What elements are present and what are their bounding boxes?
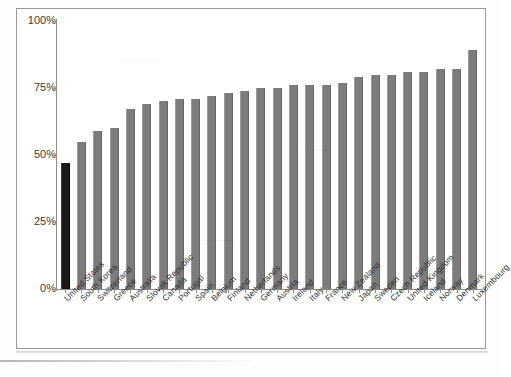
bar	[403, 72, 412, 289]
y-axis-tick-label: 0%	[18, 282, 56, 294]
bar	[240, 91, 249, 289]
bar	[289, 85, 298, 289]
bar	[305, 85, 314, 289]
bar	[322, 85, 331, 289]
bar	[61, 163, 70, 289]
bar	[338, 83, 347, 289]
bar	[77, 142, 86, 289]
bar	[468, 50, 477, 289]
bar	[256, 88, 265, 289]
bar	[387, 75, 396, 289]
y-axis-tick-label: 100%	[18, 14, 56, 26]
bar-series	[57, 21, 481, 289]
bar	[159, 101, 168, 289]
bar	[371, 75, 380, 289]
bar	[224, 93, 233, 289]
scan-shadow	[16, 351, 488, 354]
y-axis: 100%75%50%25%0%	[8, 0, 56, 377]
y-axis-tick-label: 50%	[18, 148, 56, 160]
bar	[126, 109, 135, 289]
y-axis-tick-label: 25%	[18, 215, 56, 227]
y-axis-tick-label: 75%	[18, 81, 56, 93]
bar	[142, 104, 151, 289]
bar	[273, 88, 282, 289]
bar	[207, 96, 216, 289]
bar	[354, 77, 363, 289]
